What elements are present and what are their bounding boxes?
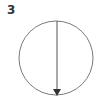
circle-outline: [19, 21, 93, 95]
circle-diagram: [0, 0, 97, 101]
